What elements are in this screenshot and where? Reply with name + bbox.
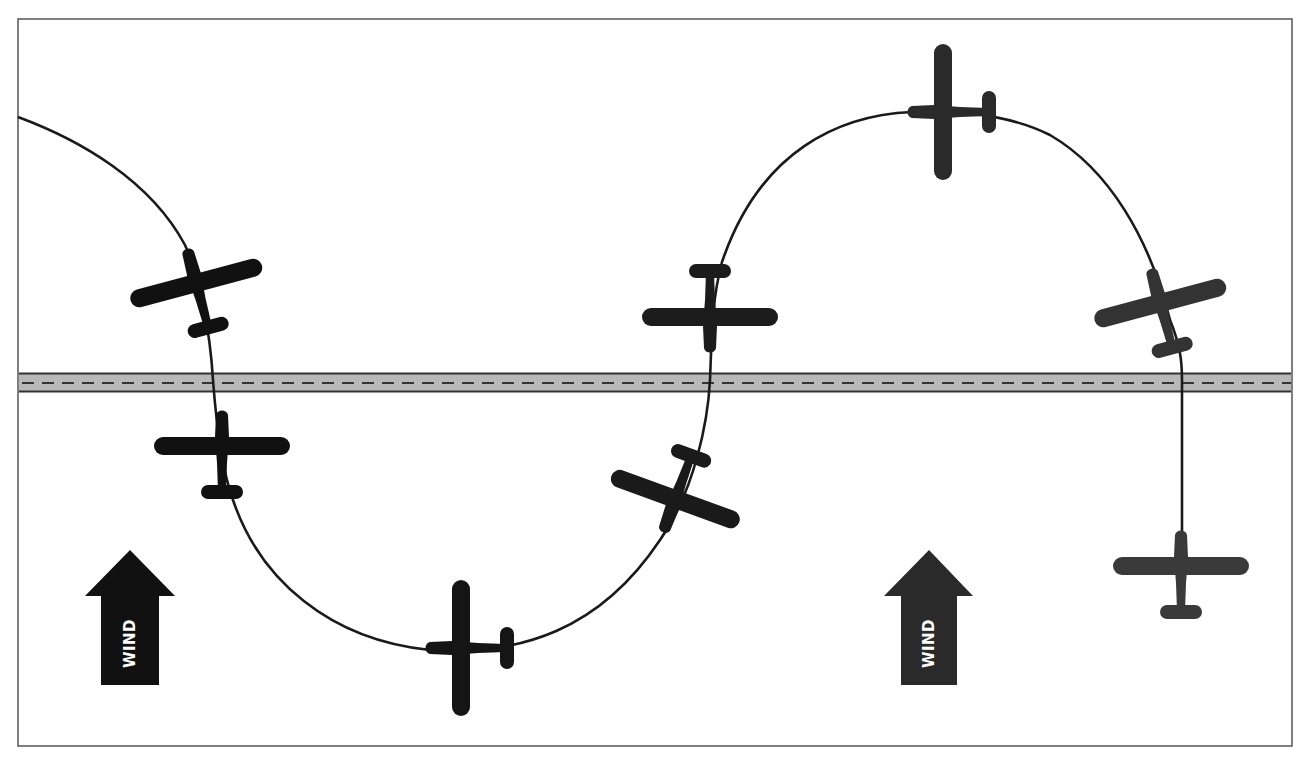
s-turns-diagram: WINDWIND [0, 0, 1306, 757]
wind-label: WIND [121, 619, 139, 668]
wind-label: WIND [920, 619, 938, 668]
road [19, 373, 1291, 392]
